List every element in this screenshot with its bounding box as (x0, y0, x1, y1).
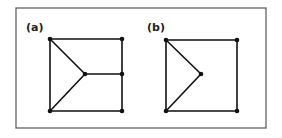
graph-vertex (120, 109, 125, 114)
graph-vertex (48, 109, 53, 114)
graph-edge (50, 39, 85, 74)
graph-edge (166, 40, 201, 74)
graph-vertex (120, 37, 125, 42)
graph-vertex (83, 72, 88, 77)
graph-vertex (48, 37, 53, 42)
graph-vertex (199, 72, 204, 77)
graph-edge (166, 74, 201, 111)
figure-frame (16, 8, 266, 128)
graph-vertex (164, 109, 169, 114)
panel-a-label: (a) (26, 21, 43, 34)
panel-b-label: (b) (147, 21, 165, 34)
graph-figure: (a) (b) (0, 0, 282, 138)
graph-vertex (164, 38, 169, 43)
graph-vertex (235, 38, 240, 43)
graph-vertex (235, 109, 240, 114)
graph-edge (50, 74, 85, 111)
panel-b-graph: (b) (147, 21, 239, 113)
graph-vertex (120, 72, 125, 77)
panel-a-graph: (a) (26, 21, 124, 113)
